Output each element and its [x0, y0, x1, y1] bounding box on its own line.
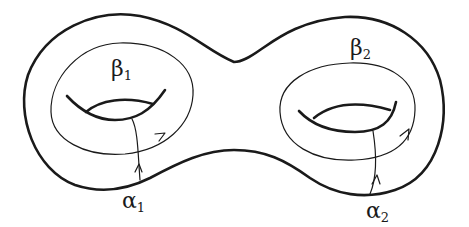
- surface-drawing: [0, 0, 469, 227]
- left-hole-lower: [67, 90, 165, 120]
- left-hole-upper: [86, 100, 153, 112]
- alpha1-arrow-icon: [135, 164, 142, 172]
- alpha2-label: α2: [366, 200, 389, 224]
- alpha2-arrow-icon: [372, 175, 380, 184]
- beta1-label: β1: [111, 58, 132, 82]
- alpha2-curve: [370, 131, 376, 194]
- beta2-arrow-icon: [400, 129, 409, 140]
- beta2-label: β2: [350, 37, 371, 61]
- alpha1-label: α1: [122, 190, 145, 214]
- beta1-arrow-icon: [155, 133, 165, 141]
- right-hole-upper: [314, 105, 390, 118]
- outer-boundary: [24, 14, 443, 195]
- genus-two-surface-diagram: β1 β2 α1 α2: [0, 0, 469, 227]
